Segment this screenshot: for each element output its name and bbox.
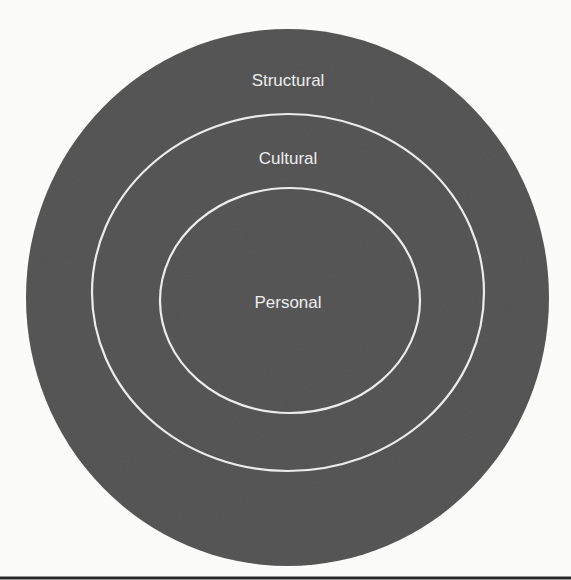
nested-circles-diagram: Structural Cultural Personal	[0, 0, 571, 580]
bottom-rule	[0, 577, 571, 580]
diagram-canvas: Structural Cultural Personal	[0, 0, 571, 580]
personal-label: Personal	[254, 293, 321, 312]
cultural-label: Cultural	[259, 149, 318, 168]
structural-label: Structural	[252, 71, 325, 90]
